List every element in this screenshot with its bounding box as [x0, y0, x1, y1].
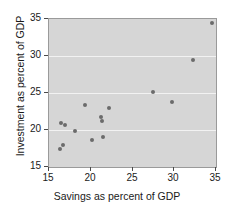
- x-axis-tick: [132, 167, 133, 171]
- x-axis-label: Savings as percent of GDP: [0, 190, 234, 202]
- y-axis-tick: [44, 129, 48, 130]
- y-axis-tick: [44, 92, 48, 93]
- y-axis-tick: [44, 18, 48, 19]
- gridline: [49, 56, 216, 57]
- x-axis-tick-label: 20: [78, 173, 102, 183]
- x-axis-tick-label: 25: [120, 173, 144, 183]
- data-point: [100, 119, 104, 123]
- data-point: [107, 106, 111, 110]
- x-axis-tick-label: 35: [203, 173, 227, 183]
- y-axis-tick: [44, 55, 48, 56]
- x-axis-tick-label: 15: [36, 173, 60, 183]
- y-axis-label: Investment as percent of GDP: [14, 6, 26, 166]
- data-point: [151, 90, 155, 94]
- x-axis-tick: [90, 167, 91, 171]
- x-axis-tick: [215, 167, 216, 171]
- y-axis-tick-label: 15: [30, 161, 41, 171]
- x-axis-tick: [48, 167, 49, 171]
- scatter-chart-figure: 1520253035 1520253035 Investment as perc…: [0, 0, 234, 214]
- data-point: [210, 21, 214, 25]
- y-axis-tick-label: 20: [30, 124, 41, 134]
- data-point: [83, 103, 87, 107]
- data-point: [58, 147, 62, 151]
- y-axis-tick-label: 35: [30, 13, 41, 23]
- x-axis-tick-label: 30: [161, 173, 185, 183]
- data-point: [170, 100, 174, 104]
- x-axis-tick: [173, 167, 174, 171]
- plot-area: [48, 18, 217, 168]
- data-point: [101, 135, 105, 139]
- data-point: [191, 58, 195, 62]
- data-point: [63, 123, 67, 127]
- data-point: [73, 129, 77, 133]
- gridline: [49, 93, 216, 94]
- y-axis-tick-label: 30: [30, 50, 41, 60]
- data-point: [61, 143, 65, 147]
- data-point: [90, 138, 94, 142]
- y-axis-tick-label: 25: [30, 87, 41, 97]
